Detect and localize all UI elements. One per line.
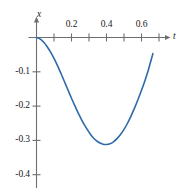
y-tick-label-1: -0.2 [5, 101, 30, 111]
x-axis-label: t [173, 32, 176, 42]
x-tick-label-1: 0.4 [101, 20, 113, 30]
y-tick-label-2: -0.3 [5, 136, 30, 146]
x-tick-label-2: 0.6 [136, 20, 148, 30]
y-tick-label-0: -0.1 [5, 67, 30, 77]
chart-figure: 0.2 0.4 0.6 -0.1 -0.2 -0.3 -0.4 x t [0, 0, 183, 192]
plot-canvas [0, 0, 183, 192]
data-curve [37, 38, 153, 145]
y-axis-label: x [37, 10, 41, 20]
x-tick-label-0: 0.2 [66, 20, 78, 30]
y-tick-label-3: -0.4 [5, 170, 30, 180]
